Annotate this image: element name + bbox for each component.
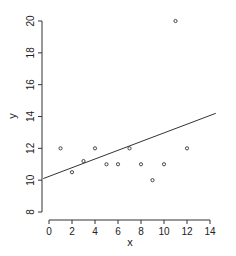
y-tick-label: 16 [25, 79, 36, 91]
data-point [82, 159, 85, 162]
data-points [59, 19, 189, 181]
x-tick-label: 12 [181, 226, 193, 237]
data-point [139, 163, 142, 166]
x-axis: 02468101214 [46, 220, 216, 237]
x-tick-label: 14 [204, 226, 216, 237]
regression-line [43, 113, 216, 178]
data-point [174, 19, 177, 22]
data-point [105, 163, 108, 166]
data-point [93, 147, 96, 150]
x-tick-label: 2 [69, 226, 75, 237]
data-point [116, 163, 119, 166]
y-tick-label: 12 [25, 142, 36, 154]
x-tick-label: 6 [115, 226, 121, 237]
y-axis-label: y [6, 113, 18, 119]
data-point [151, 179, 154, 182]
data-point [128, 147, 131, 150]
data-point [59, 147, 62, 150]
y-tick-label: 20 [25, 15, 36, 27]
data-point [70, 171, 73, 174]
y-tick-label: 18 [25, 47, 36, 59]
y-tick-label: 10 [25, 174, 36, 186]
x-tick-label: 8 [138, 226, 144, 237]
x-tick-label: 4 [92, 226, 98, 237]
scatter-chart: 8101214161820 02468101214 x y [0, 0, 236, 256]
x-axis-label: x [127, 236, 133, 248]
data-point [162, 163, 165, 166]
y-tick-label: 8 [25, 209, 36, 215]
x-tick-label: 0 [46, 226, 52, 237]
x-tick-label: 10 [158, 226, 170, 237]
y-axis: 8101214161820 [25, 15, 42, 215]
data-point [185, 147, 188, 150]
y-tick-label: 14 [25, 111, 36, 123]
